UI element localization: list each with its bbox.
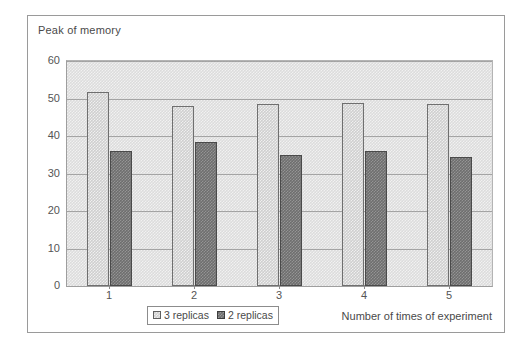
x-tick-label-2: 2 bbox=[191, 289, 197, 301]
x-tick-label-4: 4 bbox=[361, 289, 367, 301]
bar-series-2-replicas-4 bbox=[365, 151, 387, 286]
gridline bbox=[67, 99, 492, 100]
y-tick-mark bbox=[66, 286, 67, 287]
y-tick-label: 40 bbox=[48, 129, 60, 141]
bar-series-2-replicas-2 bbox=[195, 142, 217, 286]
bar-series-3-replicas-3 bbox=[257, 104, 279, 286]
y-tick-mark bbox=[66, 61, 67, 62]
y-tick-mark bbox=[66, 99, 67, 100]
y-tick-label: 0 bbox=[54, 279, 60, 291]
y-tick-mark bbox=[66, 174, 67, 175]
x-tick-label-5: 5 bbox=[446, 289, 452, 301]
y-tick-label: 60 bbox=[48, 54, 60, 66]
bar-series-2-replicas-1 bbox=[110, 151, 132, 286]
chart-title: Peak of memory bbox=[38, 24, 121, 36]
legend-swatch-dark-icon bbox=[217, 311, 225, 319]
y-tick-label: 50 bbox=[48, 92, 60, 104]
y-tick-mark bbox=[66, 136, 67, 137]
plot-area bbox=[66, 60, 493, 287]
bar-series-2-replicas-5 bbox=[450, 157, 472, 286]
y-tick-mark bbox=[66, 249, 67, 250]
y-axis: 0102030405060 bbox=[36, 60, 60, 287]
y-tick-label: 30 bbox=[48, 167, 60, 179]
chart-legend: 3 replicas 2 replicas bbox=[147, 306, 279, 325]
chart-figure: Peak of memory 0102030405060 12345 3 rep… bbox=[0, 0, 532, 352]
y-tick-label: 20 bbox=[48, 204, 60, 216]
x-tick-label-1: 1 bbox=[106, 289, 112, 301]
x-axis-title: Number of times of experiment bbox=[342, 310, 492, 322]
bar-series-3-replicas-4 bbox=[342, 103, 364, 286]
x-tick-label-3: 3 bbox=[276, 289, 282, 301]
legend-entry-2-replicas: 2 replicas bbox=[217, 309, 273, 321]
legend-label-2-replicas: 2 replicas bbox=[228, 309, 273, 321]
x-axis: 12345 bbox=[66, 289, 493, 305]
legend-swatch-light-icon bbox=[153, 311, 161, 319]
bar-series-2-replicas-3 bbox=[280, 155, 302, 286]
legend-entry-3-replicas: 3 replicas bbox=[153, 309, 209, 321]
bar-series-3-replicas-5 bbox=[427, 104, 449, 286]
bar-series-3-replicas-1 bbox=[87, 92, 109, 286]
legend-label-3-replicas: 3 replicas bbox=[164, 309, 209, 321]
bar-series-3-replicas-2 bbox=[172, 106, 194, 286]
y-tick-label: 10 bbox=[48, 242, 60, 254]
y-tick-mark bbox=[66, 211, 67, 212]
gridline bbox=[67, 61, 492, 62]
